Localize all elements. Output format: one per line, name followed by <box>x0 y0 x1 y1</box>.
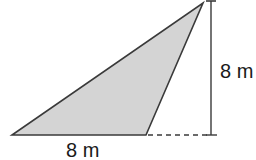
height-label: 8 m <box>220 60 253 82</box>
triangle-diagram: 8 m 8 m <box>0 0 256 160</box>
base-label: 8 m <box>66 139 99 160</box>
triangle <box>12 3 203 135</box>
